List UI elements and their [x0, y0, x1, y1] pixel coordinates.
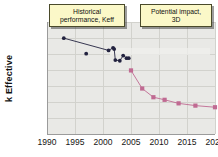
data-point-marker — [127, 56, 131, 60]
data-point-marker — [193, 104, 197, 108]
series-line — [64, 38, 129, 61]
data-point-marker — [151, 95, 155, 99]
data-point-marker — [107, 49, 111, 53]
series-historical — [62, 36, 131, 62]
annotation-line-1: Potential impact, — [144, 8, 208, 16]
data-point-marker — [213, 105, 217, 109]
annotation-line-1: Historical — [53, 8, 121, 16]
data-point-marker — [113, 58, 117, 62]
chart-container: k Effective 4.5 4 3.5 3 2.5 2 1.5 1 1990… — [0, 0, 218, 157]
annotation-line-2: 3D — [144, 16, 208, 24]
data-point-marker — [140, 86, 144, 90]
data-point-marker — [84, 52, 88, 56]
data-point-marker — [62, 36, 66, 40]
data-point-marker — [112, 47, 116, 51]
data-point-marker — [177, 101, 181, 105]
annotation-potential-impact: Potential impact, 3D — [140, 4, 212, 27]
series-projection — [129, 68, 217, 109]
annotation-line-2: performance, Keff — [53, 16, 121, 24]
data-point-marker — [121, 54, 125, 58]
data-point-marker — [163, 98, 167, 102]
data-point-marker — [118, 59, 122, 63]
annotation-historical-performance: Historical performance, Keff — [49, 4, 125, 27]
data-point-marker — [129, 68, 133, 72]
